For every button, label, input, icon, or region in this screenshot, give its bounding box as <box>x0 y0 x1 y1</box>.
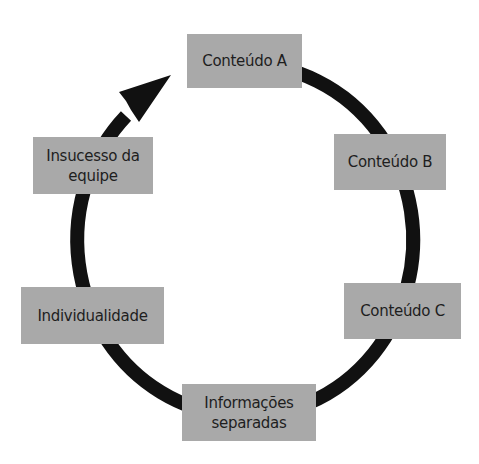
node-label: Individualidade <box>37 306 147 326</box>
node-label-line-2: equipe <box>68 166 117 186</box>
node-insucesso-da-equipe: Insucesso da equipe <box>33 137 153 194</box>
cycle-arrow-path <box>77 64 413 416</box>
node-label: Conteúdo B <box>348 152 433 172</box>
node-label-line-1: Informações <box>204 393 293 413</box>
node-label-line-2: separadas <box>212 413 287 433</box>
node-label-line-1: Insucesso da <box>46 146 139 166</box>
node-label: Conteúdo C <box>360 301 445 321</box>
node-conteudo-c: Conteúdo C <box>344 283 461 339</box>
node-conteudo-b: Conteúdo B <box>334 134 446 190</box>
node-label: Conteúdo A <box>202 51 287 71</box>
arrowhead-icon <box>119 75 171 122</box>
node-conteudo-a: Conteúdo A <box>187 34 302 88</box>
node-individualidade: Individualidade <box>21 287 164 344</box>
node-informacoes-separadas: Informações separadas <box>182 384 316 441</box>
